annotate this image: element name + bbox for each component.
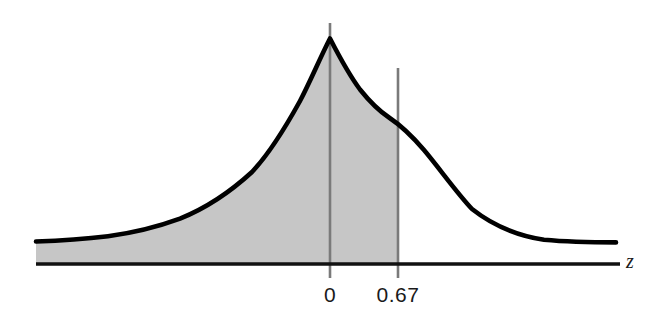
normal-curve-plot: [0, 0, 652, 315]
normal-distribution-figure: 0 0.67 z: [0, 0, 652, 315]
tick-label-z-score: 0.67: [377, 283, 420, 307]
shaded-area-mean-to-z: [330, 39, 398, 265]
tick-label-zero: 0: [324, 283, 336, 307]
axis-variable-label-z: z: [626, 250, 634, 273]
shaded-area-under-curve: [36, 39, 330, 265]
